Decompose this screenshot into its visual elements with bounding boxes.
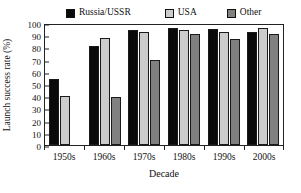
y-tick-label: 100 bbox=[28, 21, 46, 30]
y-tick-label: 10 bbox=[32, 130, 45, 139]
legend-swatch-usa bbox=[165, 9, 174, 18]
bar-group bbox=[243, 25, 283, 145]
bar bbox=[150, 60, 160, 145]
bar bbox=[258, 28, 268, 145]
y-tick-label: 80 bbox=[32, 45, 45, 54]
y-tick-label: 60 bbox=[32, 69, 45, 78]
x-tick-label: 1990s bbox=[204, 150, 244, 164]
legend-swatch-russia-ussr bbox=[66, 9, 75, 18]
bar-group bbox=[45, 25, 85, 145]
legend-item-usa: USA bbox=[165, 8, 197, 18]
bar bbox=[168, 28, 178, 145]
bar bbox=[179, 30, 189, 145]
bar bbox=[60, 96, 70, 145]
legend-item-russia-ussr: Russia/USSR bbox=[66, 8, 131, 18]
bar bbox=[100, 38, 110, 145]
plot-area: 0102030405060708090100 bbox=[44, 24, 284, 146]
x-axis-title: Decade bbox=[44, 168, 284, 179]
bar bbox=[208, 29, 218, 145]
x-tick-label: 1960s bbox=[84, 150, 124, 164]
bar bbox=[230, 39, 240, 145]
chart-figure: Russia/USSR USA Other Launch success rat… bbox=[0, 0, 301, 193]
bar bbox=[219, 32, 229, 145]
y-axis-label-text: Launch success rate (%) bbox=[3, 39, 13, 132]
legend-label-russia-ussr: Russia/USSR bbox=[79, 8, 131, 18]
bar-groups bbox=[45, 25, 283, 145]
bar bbox=[49, 79, 59, 145]
bar-group bbox=[164, 25, 204, 145]
bar bbox=[111, 97, 121, 145]
y-tick-label: 90 bbox=[32, 33, 45, 42]
y-tick-label: 40 bbox=[32, 94, 45, 103]
bar bbox=[269, 34, 279, 145]
bar-group bbox=[124, 25, 164, 145]
legend-label-other: Other bbox=[240, 8, 262, 18]
y-tick-label: 20 bbox=[32, 118, 45, 127]
bar bbox=[128, 30, 138, 145]
legend-label-usa: USA bbox=[178, 8, 197, 18]
y-tick-label: 50 bbox=[32, 82, 45, 91]
y-axis-label: Launch success rate (%) bbox=[2, 24, 14, 146]
bar bbox=[139, 32, 149, 145]
bar-group bbox=[204, 25, 244, 145]
bar bbox=[190, 34, 200, 145]
y-tick-label: 70 bbox=[32, 57, 45, 66]
bar-group bbox=[85, 25, 125, 145]
bar bbox=[247, 32, 257, 145]
y-tick-label: 30 bbox=[32, 106, 45, 115]
x-tick-label: 1980s bbox=[164, 150, 204, 164]
x-tick-label: 2000s bbox=[244, 150, 284, 164]
bar bbox=[89, 46, 99, 145]
legend-item-other: Other bbox=[227, 8, 262, 18]
x-axis-labels: 1950s1960s1970s1980s1990s2000s bbox=[44, 150, 284, 164]
x-tick-label: 1970s bbox=[124, 150, 164, 164]
chart-legend: Russia/USSR USA Other bbox=[60, 6, 292, 20]
legend-swatch-other bbox=[227, 9, 236, 18]
x-tick-label: 1950s bbox=[44, 150, 84, 164]
